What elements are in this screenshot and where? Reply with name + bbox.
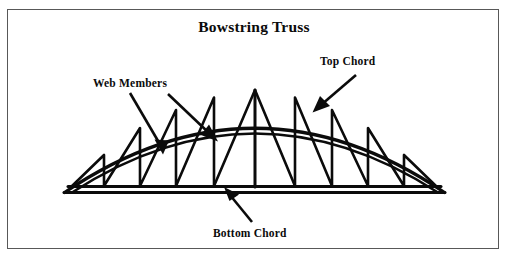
web-member-left-of-center [214,90,255,186]
web-members-arrow-steep-icon [130,93,169,155]
page-title: Bowstring Truss [0,18,508,36]
label-bottom-chord: Bottom Chord [213,227,287,239]
diagram-canvas: Bowstring Truss Web Members Top Chord Bo… [0,0,508,262]
label-web-members: Web Members [93,77,167,89]
web-members-group [72,90,436,187]
annotation-arrows-group [130,75,356,222]
label-top-chord: Top Chord [320,55,375,67]
bottom-chord-member [64,187,445,193]
web-member-right-of-center [255,90,295,186]
bowstring-truss-illustration [0,0,508,262]
top-chord-arrow-icon [313,75,357,113]
